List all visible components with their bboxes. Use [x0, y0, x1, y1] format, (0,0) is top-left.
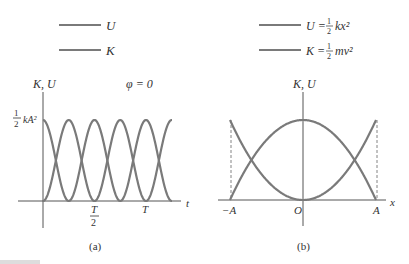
svg-text:2: 2: [327, 52, 331, 61]
tick-pos-a: A: [372, 204, 380, 216]
ylabel-a: K, U: [32, 77, 57, 91]
legend-u-label: U: [106, 18, 117, 33]
tick-half-t: 2: [91, 217, 96, 228]
phase-label: φ = 0: [126, 77, 153, 91]
svg-text:U =: U =: [306, 19, 326, 33]
ylabel-b: K, U: [292, 77, 317, 91]
legend-u-label-b: kx²: [335, 19, 350, 33]
svg-text:K =: K =: [305, 44, 325, 58]
ymax-label: kA²: [23, 114, 38, 125]
xlabel-b: x: [389, 196, 395, 208]
ymax-num: 1: [14, 108, 19, 118]
tick-neg-a: −A: [222, 204, 236, 216]
caption-b: (b): [297, 240, 310, 253]
svg-text:1: 1: [327, 17, 331, 26]
tick-t: T: [142, 203, 149, 215]
caption-a: (a): [89, 240, 102, 253]
tick-origin: O: [294, 204, 302, 216]
svg-text:1: 1: [327, 42, 331, 51]
figure: U K K, U φ = 0 1 2 kA² t T 2 T (a) U = 1…: [0, 0, 409, 264]
ymax-den: 2: [14, 119, 19, 129]
legend-k-label-b: mv²: [335, 44, 353, 58]
xlabel-a: t: [186, 197, 190, 209]
legend-k-label: K: [105, 43, 116, 58]
svg-text:2: 2: [327, 27, 331, 36]
page-edge: [0, 260, 40, 264]
svg-text:T: T: [91, 203, 98, 215]
